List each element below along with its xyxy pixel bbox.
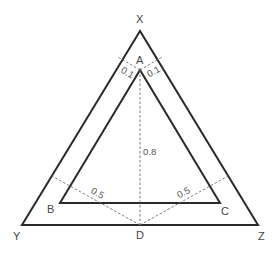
label-b: B: [47, 203, 54, 215]
label-c: C: [221, 205, 229, 217]
measure-a-left: 0.1: [119, 64, 136, 80]
measure-ad: 0.8: [143, 146, 156, 157]
dashed-line-d-to-xz: [140, 176, 228, 225]
label-a: A: [136, 54, 144, 66]
label-d: D: [136, 229, 144, 241]
label-x: X: [136, 13, 144, 25]
label-z: Z: [258, 230, 265, 242]
dashed-line-d-to-xy: [52, 176, 140, 225]
diagram-canvas: X Y Z A B C D 0.1 0.1 0.8 0.5 0.5: [0, 0, 280, 253]
measure-a-right: 0.1: [145, 63, 162, 79]
label-y: Y: [13, 230, 21, 242]
